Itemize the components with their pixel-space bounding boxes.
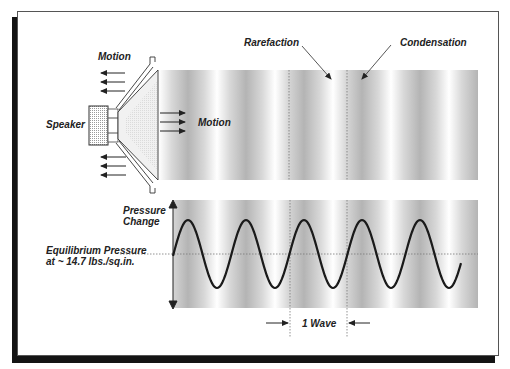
pressure-change-label-line2: Change (123, 216, 160, 227)
one-wave-label: 1 Wave (302, 318, 336, 329)
motion-label-top: Motion (98, 51, 131, 62)
pressure-change-label-line1: Pressure (123, 205, 166, 216)
condensation-label: Condensation (400, 37, 467, 48)
equilibrium-label-line1: Equilibrium Pressure (46, 245, 147, 256)
motion-label-right: Motion (198, 117, 231, 128)
motion-arrows-back-top (101, 73, 125, 91)
speaker-icon (89, 57, 158, 193)
rarefaction-label: Rarefaction (244, 37, 299, 48)
motion-arrows-back-bottom (101, 157, 126, 175)
equilibrium-label-line2: at ~ 14.7 lbs./sq.in. (46, 256, 135, 267)
speaker-label: Speaker (46, 119, 85, 130)
sound-wave-diagram (0, 0, 510, 369)
